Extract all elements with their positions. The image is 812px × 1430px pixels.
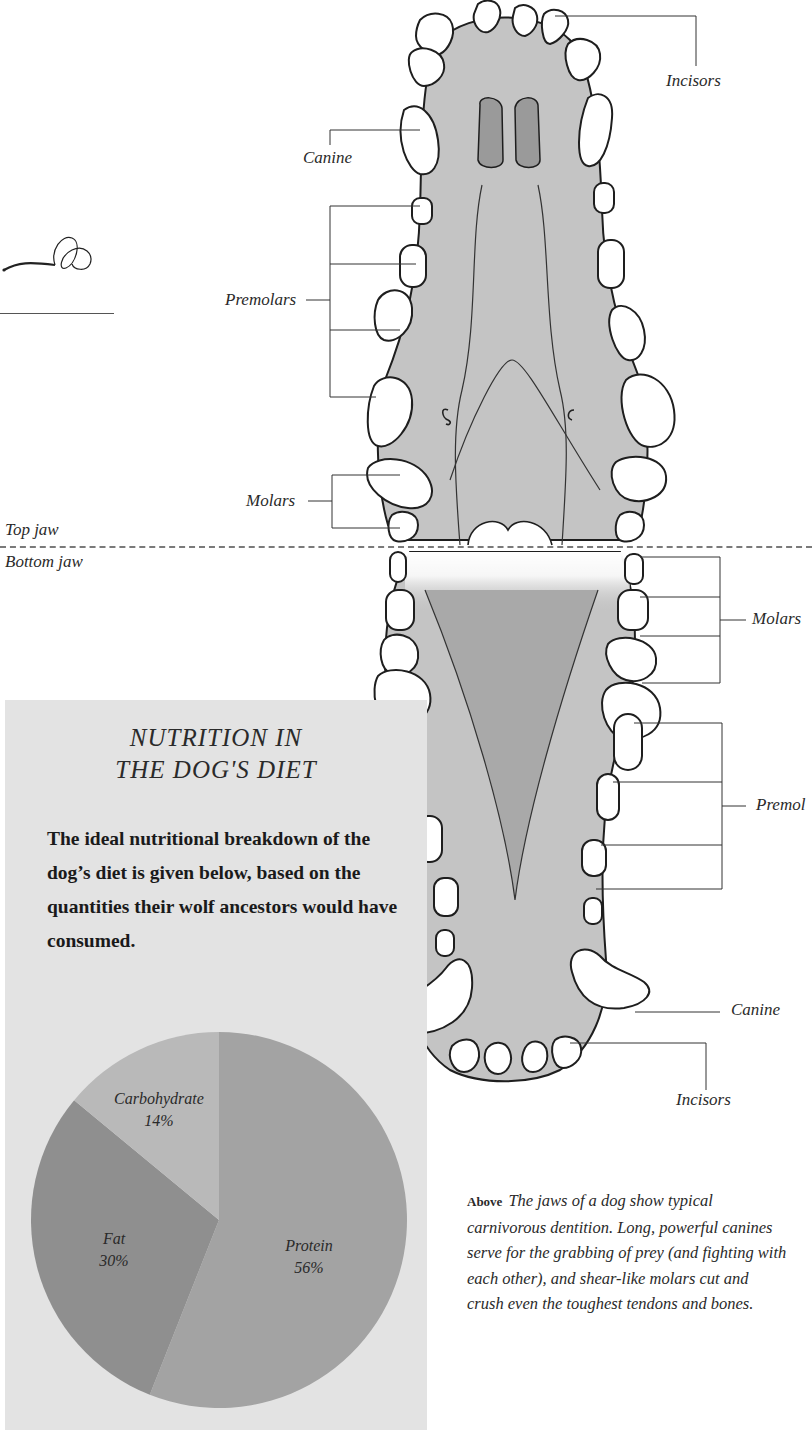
label-top-incisors: Incisors <box>666 71 721 91</box>
pie-svg <box>29 1030 409 1410</box>
jaw-divider-line <box>0 546 812 548</box>
caption-lead: Above <box>467 1194 502 1209</box>
label-top-molars: Molars <box>246 491 295 511</box>
top-jaw <box>367 1 674 545</box>
figure-caption: AboveThe jaws of a dog show typical carn… <box>467 1188 787 1317</box>
nostril-left <box>478 98 503 168</box>
nutrition-panel: NUTRITION IN THE DOG'S DIET The ideal nu… <box>5 700 427 1430</box>
pie-label-carbohydrate: Carbohydrate14% <box>99 1088 219 1132</box>
label-top-canine: Canine <box>303 148 352 168</box>
panel-body-text: The ideal nutritional breakdown of the d… <box>47 822 417 958</box>
label-bottom-incisors: Incisors <box>676 1090 731 1110</box>
nutrition-pie-chart: Carbohydrate14% Fat30% Protein56% <box>29 1030 409 1414</box>
label-bottom-canine: Canine <box>731 1000 780 1020</box>
pie-label-fat: Fat30% <box>74 1228 154 1272</box>
nostril-right <box>515 98 540 168</box>
label-bottom-premolars: Premol <box>756 795 805 815</box>
caption-text: The jaws of a dog show typical carnivoro… <box>467 1191 786 1313</box>
label-top-jaw: Top jaw <box>5 520 59 540</box>
label-bottom-jaw: Bottom jaw <box>5 552 83 572</box>
label-top-premolars: Premolars <box>225 290 296 310</box>
pie-label-protein: Protein56% <box>269 1235 349 1279</box>
panel-title: NUTRITION IN THE DOG'S DIET <box>5 722 427 786</box>
label-bottom-molars: Molars <box>752 609 801 629</box>
